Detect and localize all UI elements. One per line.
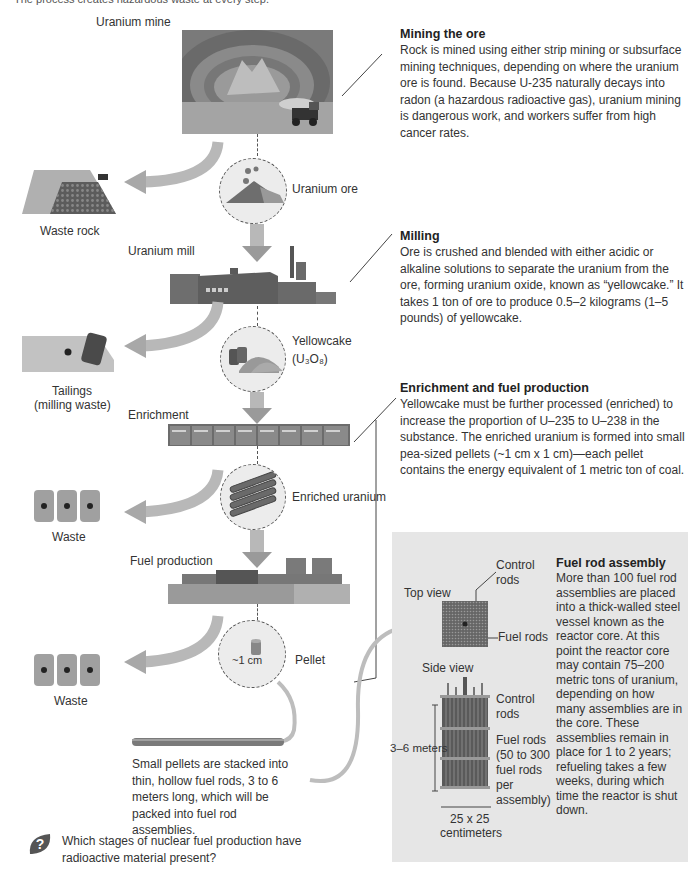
waste-label-1: Waste — [52, 530, 86, 545]
width-dimension-label-line1: 25 x 25 — [450, 812, 489, 827]
connector-line — [257, 446, 258, 464]
height-dimension-label: 3–6 meters — [390, 741, 448, 756]
mining-body: Rock is mined using either strip mining … — [400, 42, 690, 141]
fuel-production-facility-image — [168, 558, 350, 604]
arrow-to-tailings — [120, 300, 230, 360]
waste-rock-image — [20, 168, 116, 216]
tailings-label-line2: (milling waste) — [34, 398, 111, 413]
tailings-image — [20, 330, 116, 374]
waste-rock-label: Waste rock — [40, 224, 100, 239]
mining-description: Mining the ore Rock is mined using eithe… — [400, 27, 690, 141]
enriched-uranium-label: Enriched uranium — [292, 490, 386, 505]
width-dimension-line — [440, 804, 492, 810]
yellowcake-label: Yellowcake — [292, 334, 352, 349]
down-arrow-to-enrichment — [242, 392, 272, 424]
fuel-rod-image — [132, 737, 284, 747]
yellowcake-formula: (U₃O₈) — [292, 352, 328, 367]
waste-barrels-1 — [34, 488, 100, 524]
top-caption: The process creates hazardous waste at e… — [14, 0, 269, 5]
side-view-assembly-image — [440, 677, 490, 791]
uranium-mine-label: Uranium mine — [96, 15, 171, 30]
assembly-body: More than 100 fuel rod assemblies are pl… — [556, 571, 686, 818]
enriched-uranium-circle — [220, 464, 286, 530]
enrichment-label: Enrichment — [128, 408, 189, 423]
enrichment-description: Enrichment and fuel production Yellowcak… — [400, 381, 690, 479]
enrichment-body: Yellowcake must be further processed (en… — [400, 396, 690, 479]
milling-body: Ore is crushed and blended with either a… — [400, 244, 690, 327]
leader-line-milling — [348, 232, 394, 284]
fuel-rod-assembly-description: Fuel rod assembly More than 100 fuel rod… — [556, 556, 686, 818]
yellowcake-circle — [220, 326, 286, 392]
arrow-to-waste-1 — [120, 468, 230, 526]
waste-label-2: Waste — [54, 694, 88, 709]
uranium-mine-image — [182, 30, 333, 134]
enrichment-facility-image — [168, 422, 350, 446]
uranium-ore-circle — [219, 158, 287, 224]
fuel-rods-side-label: Fuel rods (50 to 300 fuel rods per assem… — [496, 733, 554, 808]
milling-title: Milling — [400, 229, 690, 243]
fuel-rod-caption: Small pellets are stacked into thin, hol… — [132, 756, 302, 839]
enrichment-title: Enrichment and fuel production — [400, 381, 690, 395]
leader-line-mining — [340, 52, 384, 98]
waste-barrels-2 — [34, 652, 100, 688]
radiation-symbol-icon — [65, 349, 72, 356]
control-rods-top-leader — [470, 570, 498, 604]
uranium-mill-image — [170, 246, 340, 306]
width-dimension-label-line2: centimeters — [440, 826, 502, 841]
uranium-ore-label: Uranium ore — [292, 182, 358, 197]
connector-line — [257, 134, 258, 156]
control-rods-side-label: Control rods — [496, 692, 546, 722]
arrow-to-waste-rock — [120, 140, 230, 200]
control-rods-top-label: Control rods — [496, 558, 546, 588]
connector-line — [257, 306, 258, 326]
top-view-grid-image — [442, 601, 488, 647]
svg-text:?: ? — [36, 836, 45, 852]
fuel-rods-top-label: Fuel rods — [498, 630, 548, 645]
top-view-label: Top view — [404, 586, 451, 601]
review-question: Which stages of nuclear fuel production … — [62, 833, 322, 866]
milling-description: Milling Ore is crushed and blended with … — [400, 229, 690, 327]
question-leaf-icon: ? — [28, 832, 52, 856]
mining-title: Mining the ore — [400, 27, 690, 41]
side-view-label: Side view — [422, 661, 473, 676]
tailings-label-line1: Tailings — [52, 384, 92, 399]
fuel-rods-top-leader — [488, 636, 498, 640]
assembly-title: Fuel rod assembly — [556, 556, 686, 570]
